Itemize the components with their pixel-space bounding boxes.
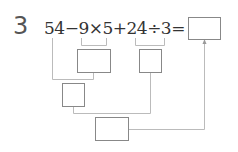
step-box-24div3[interactable] <box>139 49 162 73</box>
answer-box[interactable] <box>188 17 221 40</box>
step-box-9x5[interactable] <box>77 49 111 73</box>
step-box-addition[interactable] <box>95 117 129 141</box>
step-box-subtraction[interactable] <box>62 83 85 107</box>
